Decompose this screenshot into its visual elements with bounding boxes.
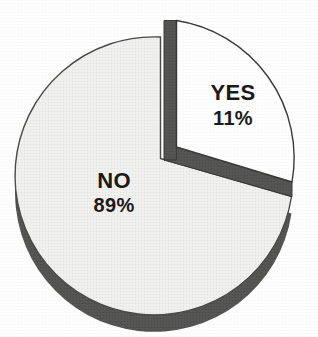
pie-chart: YES 11% NO 89%: [0, 0, 318, 337]
pie-label-no-name: NO: [71, 170, 157, 192]
pie-slice-yes-left-wall: [164, 21, 177, 161]
pie-label-yes-name: YES: [190, 82, 276, 104]
pie-label-yes-value: 11%: [190, 108, 276, 128]
pie-chart-graphic: [0, 0, 318, 337]
pie-label-no-value: 89%: [71, 195, 157, 215]
